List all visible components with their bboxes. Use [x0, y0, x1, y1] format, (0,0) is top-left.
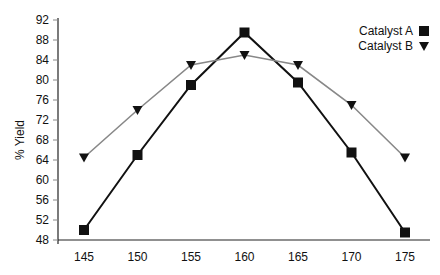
series-line-a [84, 33, 405, 233]
x-tick-label: 175 [395, 250, 415, 264]
square-marker-icon [79, 225, 89, 235]
square-marker-icon [133, 150, 143, 160]
square-marker-icon [400, 228, 410, 238]
triangle-marker-icon [293, 61, 303, 70]
square-marker-icon [293, 78, 303, 88]
legend-triangle-icon [419, 42, 429, 51]
triangle-marker-icon [79, 154, 89, 163]
y-tick-label: 80 [36, 73, 50, 87]
y-tick-label: 76 [36, 93, 50, 107]
line-chart: 485256606468727680848892 145150155160165… [0, 0, 440, 275]
y-tick-label: 88 [36, 33, 50, 47]
triangle-marker-icon [400, 154, 410, 163]
y-axis-label: % Yield [13, 120, 27, 160]
y-tick-label: 52 [36, 213, 50, 227]
legend-label: Catalyst A [359, 24, 413, 38]
x-tick-label: 170 [341, 250, 361, 264]
y-tick-label: 64 [36, 153, 50, 167]
series-group [79, 28, 410, 238]
y-tick-label: 60 [36, 173, 50, 187]
square-marker-icon [240, 28, 250, 38]
legend: Catalyst ACatalyst B [358, 24, 429, 53]
legend-square-icon [419, 26, 429, 36]
x-tick-label: 155 [181, 250, 201, 264]
y-tick-label: 72 [36, 113, 50, 127]
y-tick-label: 68 [36, 133, 50, 147]
x-axis: 145150155160165170175 [58, 240, 430, 264]
y-axis: 485256606468727680848892 [36, 13, 58, 247]
square-marker-icon [186, 80, 196, 90]
x-tick-label: 145 [74, 250, 94, 264]
x-tick-label: 165 [288, 250, 308, 264]
square-marker-icon [347, 148, 357, 158]
y-tick-label: 56 [36, 193, 50, 207]
x-tick-label: 160 [234, 250, 254, 264]
legend-label: Catalyst B [358, 39, 413, 53]
y-tick-label: 92 [36, 13, 50, 27]
series-line-b [84, 55, 405, 158]
y-tick-label: 48 [36, 233, 50, 247]
y-tick-label: 84 [36, 53, 50, 67]
x-tick-label: 150 [127, 250, 147, 264]
